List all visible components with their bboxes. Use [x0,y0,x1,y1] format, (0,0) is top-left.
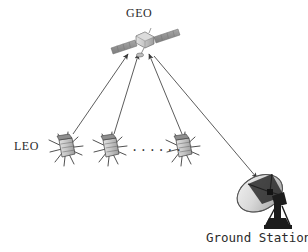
link-leo3-to-geo [149,54,182,134]
geo-satellite-body [136,32,154,48]
satellite-network-diagram: GEO LEO ······ Ground Station [0,0,308,252]
geo-solar-panel-left [111,40,137,54]
leo-ellipsis: ······ [131,143,184,157]
link-leo2-to-geo [114,54,139,134]
ground-station [231,167,292,229]
geo-label: GEO [126,6,152,21]
geo-satellite [111,28,180,57]
diagram-canvas [0,0,308,252]
leo-satellite-2 [93,132,127,166]
leo-body [57,134,75,157]
link-leo1-to-geo [73,54,128,134]
ground-station-label: Ground Station [206,230,308,245]
leo-satellite-1 [49,132,83,166]
leo-label: LEO [14,139,39,154]
leo-body [101,134,119,157]
geo-solar-panel-right [154,29,180,43]
link-geo-to-ground-station [154,56,257,178]
ground-station-feed-horn [267,189,273,195]
